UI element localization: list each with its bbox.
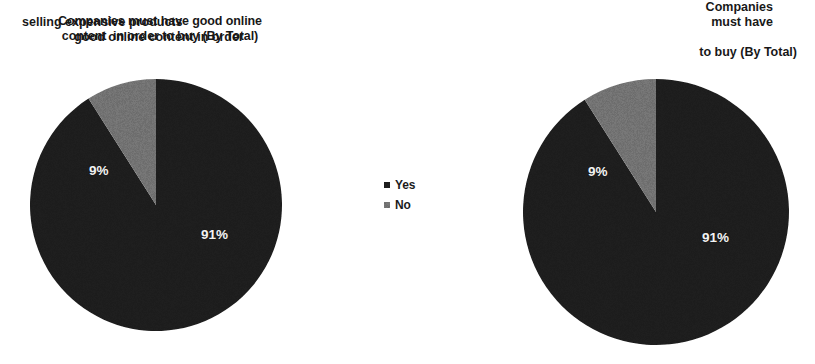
right-title-line-2-left: selling expensive products — [22, 15, 182, 30]
legend-square-marker-yes — [384, 182, 390, 188]
right-pie-chart[interactable]: 91% 9% — [522, 78, 790, 346]
legend-item-no[interactable]: No — [384, 196, 415, 213]
left-pie-label-yes: 91% — [201, 227, 228, 242]
left-pie-label-no: 9% — [89, 163, 109, 178]
legend-item-yes[interactable]: Yes — [384, 176, 415, 193]
right-pie-svg — [522, 78, 790, 346]
right-pie-label-no: 9% — [588, 164, 608, 179]
legend-label-yes: Yes — [395, 178, 415, 192]
legend-label-no: No — [395, 198, 411, 212]
left-pie-chart[interactable]: 91% 9% — [29, 78, 283, 332]
right-title-line-2-right: must have — [711, 15, 773, 30]
right-pie-label-yes: 91% — [702, 230, 729, 245]
legend: Yes No — [384, 176, 415, 216]
right-chart-title: Companies selling expensive products mus… — [0, 0, 360, 66]
legend-square-marker-no — [384, 202, 390, 208]
right-title-line-4: to buy (By Total) — [699, 45, 797, 60]
right-title-line-3: good online content in order — [0, 30, 318, 45]
left-pie-svg — [29, 78, 283, 332]
right-title-line-1: Companies — [706, 0, 773, 15]
